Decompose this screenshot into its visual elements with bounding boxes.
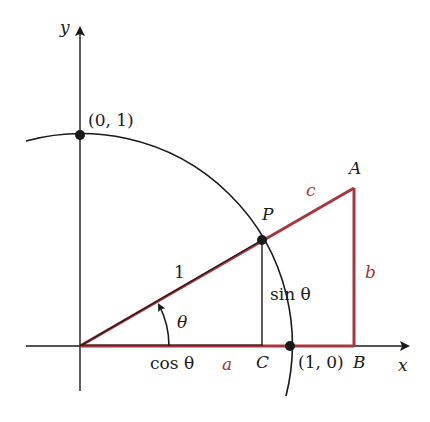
- unit-circle-diagram: y x (0, 1) (1, 0) P A B C 1 θ cos θ sin …: [0, 0, 430, 422]
- point-P: [257, 235, 267, 245]
- point-P-label: P: [261, 204, 274, 224]
- radius-line: [80, 240, 262, 346]
- point-0-1-label: (0, 1): [88, 110, 134, 130]
- angle-theta-label: θ: [177, 312, 187, 332]
- point-0-1: [75, 130, 85, 140]
- x-axis-label: x: [398, 355, 408, 375]
- cos-theta-label: cos θ: [150, 353, 194, 373]
- point-1-0: [285, 341, 295, 351]
- side-c-label: c: [306, 180, 316, 200]
- side-a-label: a: [222, 354, 232, 374]
- sin-theta-label: sin θ: [270, 284, 311, 304]
- y-axis-label: y: [59, 17, 70, 37]
- point-A-label: A: [347, 158, 361, 178]
- point-C-label: C: [256, 352, 269, 372]
- point-1-0-label: (1, 0): [298, 352, 344, 372]
- angle-theta-arrow: [159, 305, 169, 346]
- side-b-label: b: [365, 262, 376, 282]
- point-B-label: B: [352, 352, 366, 372]
- unit-hypotenuse-label: 1: [174, 262, 185, 282]
